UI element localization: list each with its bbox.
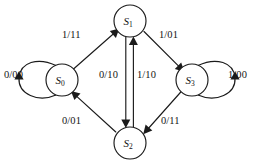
state-node-s1[interactable]: S1 xyxy=(114,5,146,37)
transition-label-s3-self-loop: 1/00 xyxy=(228,70,247,81)
state-node-s0[interactable]: S0 xyxy=(46,64,78,96)
transition-label-s1-to-s2: 0/10 xyxy=(99,70,118,81)
state-node-s3[interactable]: S3 xyxy=(176,64,208,96)
transition-s3-to-s2 xyxy=(143,92,181,134)
transition-label-s0-self-loop: 0/00 xyxy=(4,70,23,81)
transition-label-s2-to-s0: 0/01 xyxy=(62,116,81,127)
state-diagram-canvas: S0 S1 S2 S3 0/00 1/11 1/01 1/00 0/10 1/1… xyxy=(0,0,259,167)
transition-s2-to-s1 xyxy=(129,37,138,128)
transition-s1-to-s2 xyxy=(121,37,130,128)
state-diagram-graphic: S0 S1 S2 S3 xyxy=(0,0,259,167)
transition-label-s0-to-s1: 1/11 xyxy=(62,30,81,41)
state-node-s2[interactable]: S2 xyxy=(114,127,146,159)
transition-label-s1-to-s3: 1/01 xyxy=(159,30,178,41)
transition-label-s2-to-s1: 1/10 xyxy=(137,70,156,81)
transition-label-s3-to-s2: 0/11 xyxy=(161,116,180,127)
transition-s2-to-s1-arrowhead xyxy=(129,37,138,45)
